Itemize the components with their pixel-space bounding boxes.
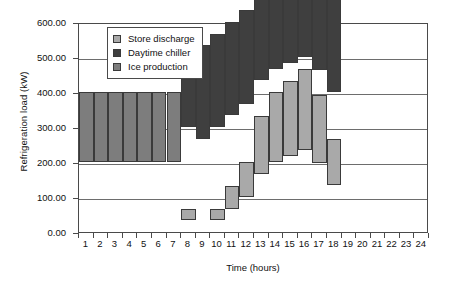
bar-segment-ice-production [167, 92, 182, 162]
y-tick-label: 0.00 [6, 228, 66, 238]
bar-segment-daytime-chiller [254, 0, 269, 80]
x-tick-mark [78, 233, 79, 238]
bar-segment-ice-production [108, 92, 123, 162]
y-tick-mark [73, 23, 78, 24]
y-tick-mark [73, 58, 78, 59]
bar-segment-ice-production [79, 92, 94, 162]
x-tick-mark [326, 233, 327, 238]
legend-item-ice-production: Ice production [113, 60, 195, 74]
x-tick-mark [428, 233, 429, 238]
y-tick-label: 600.00 [6, 18, 66, 28]
bar-hour-18 [327, 92, 342, 232]
bar-segment-daytime-chiller [298, 0, 313, 57]
x-tick-mark [355, 233, 356, 238]
x-tick-mark [122, 233, 123, 238]
bar-segment-store-discharge [298, 69, 313, 151]
legend-label: Store discharge [128, 34, 195, 44]
legend-item-store-discharge: Store discharge [113, 32, 195, 46]
bar-hour-1 [79, 162, 94, 232]
x-tick-mark [268, 233, 269, 238]
x-tick-mark [195, 233, 196, 238]
legend-label: Daytime chiller [128, 48, 190, 58]
bar-segment-daytime-chiller [225, 22, 240, 115]
x-tick-mark [166, 233, 167, 238]
bar-hour-9 [196, 139, 211, 232]
bar-segment-daytime-chiller [327, 0, 342, 92]
x-tick-mark [399, 233, 400, 238]
x-tick-mark [93, 233, 94, 238]
legend-swatch-icon [113, 35, 121, 43]
bar-hour-8 [181, 127, 196, 232]
x-tick-mark [384, 233, 385, 238]
y-tick-mark [73, 163, 78, 164]
bar-segment-ice-production [152, 92, 167, 162]
bar-hour-16 [298, 57, 313, 232]
legend-swatch-icon [113, 63, 121, 71]
legend-label: Ice production [128, 62, 188, 72]
bar-hour-12 [239, 104, 254, 232]
bar-hour-13 [254, 80, 269, 232]
bar-segment-store-discharge [239, 162, 254, 197]
y-tick-label: 300.00 [6, 123, 66, 133]
x-tick-mark [341, 233, 342, 238]
x-tick-mark [136, 233, 137, 238]
y-tick-mark [73, 93, 78, 94]
bar-segment-store-discharge [225, 186, 240, 209]
bar-segment-store-discharge [181, 209, 196, 221]
x-tick-mark [297, 233, 298, 238]
bar-segment-daytime-chiller [239, 10, 254, 103]
bar-segment-store-discharge [210, 209, 225, 221]
bar-segment-ice-production [94, 92, 109, 162]
y-tick-label: 100.00 [6, 193, 66, 203]
bar-hour-7 [167, 162, 182, 232]
x-tick-mark [180, 233, 181, 238]
x-tick-mark [282, 233, 283, 238]
bar-hour-11 [225, 115, 240, 232]
bar-hour-10 [210, 127, 225, 232]
y-tick-label: 500.00 [6, 53, 66, 63]
x-tick-mark [224, 233, 225, 238]
x-tick-mark [311, 233, 312, 238]
bar-hour-2 [94, 162, 109, 232]
bar-segment-store-discharge [283, 81, 298, 157]
bar-segment-store-discharge [269, 92, 284, 162]
y-tick-label: 200.00 [6, 158, 66, 168]
bar-hour-15 [283, 63, 298, 232]
legend-swatch-icon [113, 49, 121, 57]
x-axis-title: Time (hours) [78, 262, 428, 273]
bar-segment-store-discharge [327, 139, 342, 186]
bar-segment-ice-production [137, 92, 152, 162]
refrigeration-load-chart: Refrigeration load (kW) 0.00100.00200.00… [0, 0, 451, 287]
bar-hour-5 [137, 162, 152, 232]
bar-segment-store-discharge [312, 95, 327, 164]
x-tick-mark [413, 233, 414, 238]
y-tick-label: 400.00 [6, 88, 66, 98]
x-tick-mark [238, 233, 239, 238]
bar-hour-14 [269, 69, 284, 232]
bar-segment-daytime-chiller [312, 0, 327, 70]
x-tick-mark [370, 233, 371, 238]
x-tick-label-24: 24 [409, 239, 433, 249]
chart-legend: Store dischargeDaytime chillerIce produc… [107, 27, 203, 79]
bar-hour-6 [152, 162, 167, 232]
y-tick-mark [73, 198, 78, 199]
bar-segment-store-discharge [254, 116, 269, 174]
x-tick-mark [151, 233, 152, 238]
bar-hour-4 [123, 162, 138, 232]
bar-segment-ice-production [123, 92, 138, 162]
bar-hour-17 [312, 70, 327, 232]
bar-segment-daytime-chiller [210, 34, 225, 127]
bar-segment-daytime-chiller [283, 0, 298, 63]
bar-hour-3 [108, 162, 123, 232]
x-tick-mark [107, 233, 108, 238]
y-tick-mark [73, 128, 78, 129]
x-tick-mark [209, 233, 210, 238]
x-tick-mark [253, 233, 254, 238]
legend-item-daytime-chiller: Daytime chiller [113, 46, 195, 60]
bar-segment-daytime-chiller [269, 0, 284, 69]
